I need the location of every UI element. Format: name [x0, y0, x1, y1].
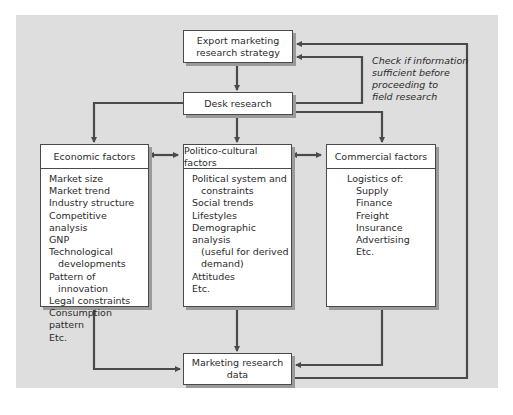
factor-list: Market size Market trend Industry struct… — [41, 169, 148, 344]
list-item: Social trends — [192, 197, 291, 209]
list-item: Political system and — [192, 173, 291, 185]
note-line4: field research — [372, 91, 468, 103]
list-item: Freight — [347, 210, 435, 222]
node-label-line1: Export marketing — [197, 35, 280, 47]
node-label: Desk research — [204, 98, 272, 110]
list-item: Consumption pattern — [49, 307, 148, 331]
node-desk-research: Desk research — [183, 92, 293, 115]
node-commercial-factors: Commercial factors Logistics of: Supply … — [326, 144, 436, 307]
list-item: constraints — [192, 185, 291, 197]
list-item: Supply — [347, 185, 435, 197]
list-item: developments — [49, 258, 148, 270]
factor-list: Logistics of: Supply Finance Freight Ins… — [327, 169, 435, 258]
factor-list: Political system and constraints Social … — [184, 169, 291, 295]
list-item: GNP — [49, 234, 148, 246]
list-item: Advertising — [347, 234, 435, 246]
list-item: Etc. — [347, 246, 435, 258]
list-item: Technological — [49, 246, 148, 258]
node-label-line2: data — [227, 369, 248, 381]
node-economic-factors: Economic factors Market size Market tren… — [40, 144, 149, 307]
list-item: (useful for derived — [192, 246, 291, 258]
node-marketing-research-data: Marketing research data — [183, 353, 292, 385]
list-item: Etc. — [192, 283, 291, 295]
list-item: Pattern of — [49, 271, 148, 283]
list-item: Finance — [347, 197, 435, 209]
list-item: Insurance — [347, 222, 435, 234]
list-item: Attitudes — [192, 271, 291, 283]
list-item: innovation — [49, 283, 148, 295]
node-title: Economic factors — [41, 145, 148, 169]
list-item: Market size — [49, 173, 148, 185]
node-label-line1: Marketing research — [192, 357, 283, 369]
node-title: Politico-cultural factors — [184, 145, 291, 169]
note-line2: sufficient before — [372, 67, 468, 79]
feedback-note: Check if information sufficient before p… — [372, 55, 468, 103]
list-item: Etc. — [49, 332, 148, 344]
list-item: Logistics of: — [347, 173, 435, 185]
list-item: Competitive analysis — [49, 210, 148, 234]
note-line1: Check if information — [372, 55, 468, 67]
list-item: Legal constraints — [49, 295, 148, 307]
list-item: Demographic analysis — [192, 222, 291, 246]
list-item: Lifestyles — [192, 210, 291, 222]
list-item: demand) — [192, 258, 291, 270]
node-label-line2: research strategy — [196, 47, 280, 59]
list-item: Market trend — [49, 185, 148, 197]
node-title: Commercial factors — [327, 145, 435, 169]
list-item: Industry structure — [49, 197, 148, 209]
node-export-marketing-research-strategy: Export marketing research strategy — [183, 30, 293, 63]
note-line3: proceeding to — [372, 79, 468, 91]
node-politico-cultural-factors: Politico-cultural factors Political syst… — [183, 144, 292, 307]
